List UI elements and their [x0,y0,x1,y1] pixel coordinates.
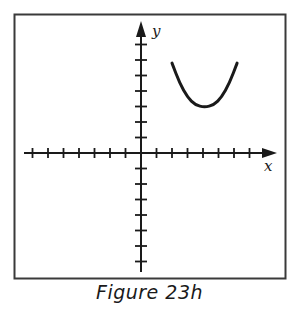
y-axis [135,21,147,272]
figure-caption: Figure 23h [0,281,299,303]
parabola-curve [172,63,237,107]
x-axis [24,148,277,158]
figure-frame [15,15,286,279]
y-axis-label: y [151,22,161,40]
x-axis-label: x [264,157,273,175]
y-axis-arrow-icon [136,21,146,37]
figure-23h: x y [0,0,299,311]
